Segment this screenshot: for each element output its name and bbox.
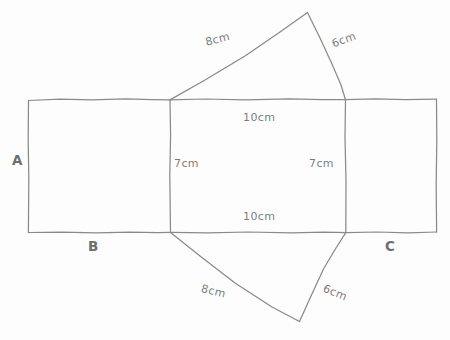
right-rect-top-edge (346, 99, 437, 100)
dimension-label-middle-bottom: 10cm (243, 210, 275, 223)
net-diagram: 8cm 6cm 10cm 7cm 7cm 10cm 8cm 6cm A B C (0, 0, 450, 340)
middle-rect-left-edge (170, 100, 171, 233)
right-rect-right-edge (436, 99, 437, 232)
bottom-triangle-right-side (300, 233, 346, 322)
dimension-label-middle-top: 10cm (243, 111, 275, 124)
face-label-b: B (88, 238, 98, 254)
right-rect-bottom-edge (346, 232, 437, 233)
middle-rect-bottom-edge (171, 232, 346, 233)
bottom-triangle-left-side (171, 232, 300, 321)
dimension-label-middle-left: 7cm (174, 157, 199, 170)
top-triangle-right-side (308, 13, 346, 100)
middle-rect-top-edge (170, 99, 346, 100)
left-rect-bottom-edge (28, 232, 170, 233)
face-label-a: A (12, 152, 22, 168)
middle-rect-right-edge (345, 100, 346, 233)
left-rect-top-edge (29, 99, 171, 101)
face-label-c: C (385, 238, 395, 254)
dimension-label-middle-right: 7cm (309, 157, 334, 170)
left-rect-left-edge (28, 101, 29, 233)
top-triangle-left-side (170, 13, 308, 100)
